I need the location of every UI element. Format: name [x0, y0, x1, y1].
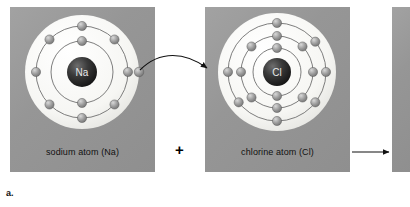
- plus-sign: +: [175, 142, 184, 157]
- annotation-overlay: [0, 0, 410, 207]
- figure-canvas: Na sodium atom (Na): [0, 0, 410, 207]
- figure-label: a.: [6, 188, 14, 198]
- electron-transfer-arrow: [140, 56, 207, 71]
